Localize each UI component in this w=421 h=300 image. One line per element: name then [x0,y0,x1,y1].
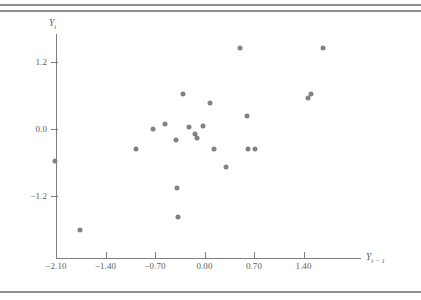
x-axis-title-subscript: t − 1 [371,257,385,265]
x-tick-mark [254,252,255,258]
x-tick-mark [56,252,57,258]
data-point [245,147,250,152]
data-point [244,114,249,119]
x-tick-label: −0.70 [144,261,165,271]
data-point [253,147,258,152]
data-point [201,124,206,129]
data-point [194,136,199,141]
data-point [186,125,191,130]
scatter-plot: Yt Yt − 1 −2.10−1.40−0.700.000.701.40 1.… [0,18,421,286]
data-point [224,164,229,169]
data-point [133,146,138,151]
x-tick-label: −2.10 [45,261,66,271]
x-tick-label: 1.40 [295,261,311,271]
x-axis-line [56,258,361,259]
data-point [78,227,83,232]
y-tick-label: 0.0 [35,124,47,134]
data-point [174,138,179,143]
y-axis-line [56,34,57,258]
data-point [211,147,216,152]
y-axis-title-subscript: t [54,23,56,31]
x-tick-label: 0.00 [196,261,212,271]
data-point [237,46,242,51]
data-point [321,46,326,51]
y-tick-mark [51,129,58,130]
x-tick-label: −1.40 [95,261,116,271]
x-tick-mark [205,252,206,258]
data-point [305,96,310,101]
data-point [174,185,179,190]
x-tick-mark [106,252,107,258]
x-tick-label: 0.70 [246,261,262,271]
data-point [150,127,155,132]
page-rule-top-primary [0,4,421,6]
figure-page: Yt Yt − 1 −2.10−1.40−0.700.000.701.40 1.… [0,0,421,300]
y-tick-label: −1.2 [30,191,47,201]
y-tick-label: 1.2 [35,57,47,67]
page-rule-top-secondary [0,10,421,12]
x-axis-title: Yt − 1 [366,252,385,265]
x-tick-mark [155,252,156,258]
data-point [175,214,180,219]
data-point [180,92,185,97]
y-tick-mark [51,62,58,63]
page-rule-bottom [0,291,421,293]
data-point [162,121,167,126]
data-point [308,91,313,96]
data-point [208,101,213,106]
y-axis-title: Yt [49,18,56,31]
x-tick-mark [304,252,305,258]
data-point [53,159,58,164]
y-tick-mark [51,196,58,197]
